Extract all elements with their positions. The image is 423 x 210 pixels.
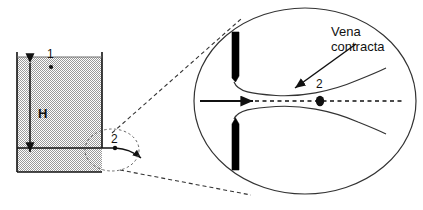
- vena-contracta-label-line1: Vena: [331, 24, 361, 39]
- detail-section-label: 2: [316, 77, 323, 91]
- orifice-plate-lower: [232, 118, 239, 170]
- zoom-connector-upper: [112, 19, 241, 133]
- vena-contracta-label-line2: contracta: [331, 39, 385, 54]
- detail-view-group: 2 Vena contracta: [194, 8, 416, 194]
- point-2-marker: [113, 146, 117, 150]
- orifice-plate-upper: [232, 32, 239, 82]
- zoom-connector-group: [112, 19, 251, 195]
- tank-group: H 1 2: [17, 47, 141, 172]
- jet-streamline-lower: [234, 106, 386, 134]
- figure-root: H 1 2: [0, 0, 423, 210]
- jet-streamline-upper: [234, 68, 386, 96]
- zoom-connector-lower: [120, 170, 251, 195]
- orifice-diagram: H 1 2: [0, 0, 423, 210]
- jet-exit-arrow: [115, 148, 141, 158]
- head-label: H: [38, 106, 47, 121]
- point-1-marker: [49, 65, 53, 69]
- vena-contracta-point: [316, 96, 324, 106]
- point-2-label: 2: [111, 132, 118, 146]
- point-1-label: 1: [47, 47, 54, 61]
